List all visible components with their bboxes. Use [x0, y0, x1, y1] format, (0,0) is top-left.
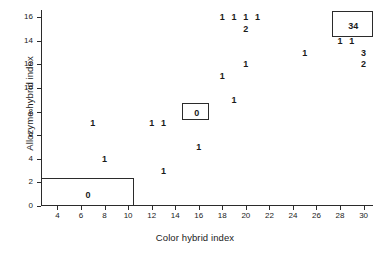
x-tick-label: 14 [171, 212, 180, 220]
box-count-label: 0 [85, 191, 90, 200]
data-point-count: 1 [243, 60, 248, 69]
data-point-count: 1 [302, 48, 307, 57]
x-tick-mark [316, 206, 317, 210]
x-tick-mark [199, 206, 200, 210]
x-tick-label: 26 [312, 212, 321, 220]
data-point-count: 1 [232, 95, 237, 104]
y-axis-title: Allozyme hybrid index [24, 14, 35, 194]
x-tick-mark [293, 206, 294, 210]
x-tick-label: 22 [265, 212, 274, 220]
y-tick-label: 0 [29, 202, 33, 210]
data-point-count: 1 [220, 72, 225, 81]
box-count-label: 0 [194, 108, 199, 117]
data-point-count: 2 [361, 60, 366, 69]
x-tick-mark [152, 206, 153, 210]
x-tick-mark [222, 206, 223, 210]
data-point-count: 1 [232, 13, 237, 22]
y-axis-line [41, 10, 42, 206]
x-tick-mark [57, 206, 58, 210]
data-point-count: 1 [220, 13, 225, 22]
x-tick-label: 18 [218, 212, 227, 220]
data-point-count: 3 [361, 48, 366, 57]
x-tick-mark [364, 206, 365, 210]
box-count-label: 34 [348, 21, 358, 30]
y-tick-mark [37, 159, 41, 160]
data-point-count: 1 [102, 154, 107, 163]
y-tick-mark [37, 135, 41, 136]
x-tick-label: 12 [147, 212, 156, 220]
x-tick-mark [175, 206, 176, 210]
data-point-count: 1 [161, 166, 166, 175]
x-tick-mark [269, 206, 270, 210]
y-tick-mark [37, 112, 41, 113]
y-tick-mark [37, 64, 41, 65]
scatter-plot-figure: 4681012141618202224262830 0246810121416 … [0, 0, 390, 254]
x-tick-mark [81, 206, 82, 210]
x-tick-label: 20 [241, 212, 250, 220]
parental-allozyme-box: 34 [332, 11, 373, 37]
y-tick-mark [37, 41, 41, 42]
data-point-count: 1 [149, 119, 154, 128]
data-point-count: 1 [196, 142, 201, 151]
y-tick-mark [37, 88, 41, 89]
x-tick-mark [105, 206, 106, 210]
x-tick-label: 28 [336, 212, 345, 220]
x-tick-label: 6 [79, 212, 83, 220]
data-point-count: 1 [161, 119, 166, 128]
x-tick-label: 8 [102, 212, 106, 220]
x-tick-mark [128, 206, 129, 210]
data-point-count: 1 [90, 119, 95, 128]
midpoint-box: 0 [182, 103, 209, 120]
data-point-count: 1 [338, 36, 343, 45]
parental-color-box: 0 [41, 178, 134, 206]
x-tick-label: 24 [288, 212, 297, 220]
data-point-count: 1 [349, 36, 354, 45]
y-tick-mark [37, 17, 41, 18]
data-point-count: 1 [255, 13, 260, 22]
x-tick-label: 10 [124, 212, 133, 220]
x-tick-label: 16 [194, 212, 203, 220]
data-point-count: 1 [243, 13, 248, 22]
x-tick-label: 4 [55, 212, 59, 220]
x-tick-label: 30 [359, 212, 368, 220]
x-axis-title: Color hybrid index [0, 232, 390, 243]
data-point-count: 2 [243, 24, 248, 33]
y-tick-mark [37, 206, 41, 207]
x-tick-mark [340, 206, 341, 210]
x-tick-mark [246, 206, 247, 210]
